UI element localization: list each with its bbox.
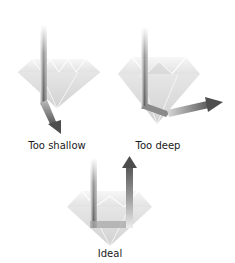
arrow-head-icon: [122, 156, 137, 168]
label-ideal: Ideal: [98, 248, 122, 259]
diamond-too-shallow: [18, 59, 100, 108]
label-too-shallow: Too shallow: [28, 140, 85, 151]
arrow-head-icon: [205, 97, 223, 112]
label-too-deep: Too deep: [136, 140, 181, 151]
diamond-ideal: [67, 191, 152, 246]
diamond-cut-diagram: [0, 0, 235, 263]
